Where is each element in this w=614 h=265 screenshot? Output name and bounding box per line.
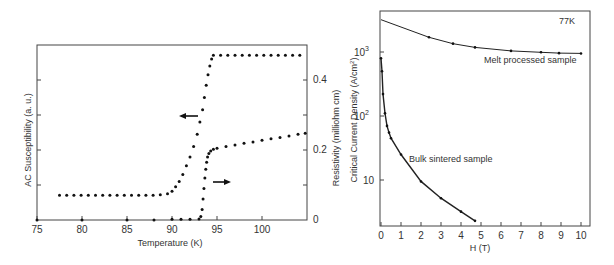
- x-tick-label: 1: [398, 230, 404, 241]
- data-point: [210, 58, 213, 61]
- data-point: [291, 54, 294, 57]
- data-point: [72, 194, 75, 197]
- data-point: [196, 133, 199, 136]
- data-point: [65, 194, 68, 197]
- y-right-tick-label: 0.2: [313, 144, 327, 155]
- bulk-sintered-label: Bulk sintered sample: [409, 154, 493, 164]
- left-y-axis-label: AC Susceptibility (a. u.): [23, 93, 33, 187]
- data-point: [198, 217, 201, 220]
- data-point: [203, 177, 206, 180]
- left-x-ticks: 7580859095100: [31, 216, 270, 235]
- left-x-axis-label: Temperature (K): [137, 238, 202, 248]
- x-tick-label: 4: [458, 230, 464, 241]
- data-point: [297, 133, 300, 136]
- data-point: [36, 219, 39, 222]
- data-point: [279, 136, 282, 139]
- left-y-ticks: 00.20.4: [37, 74, 327, 225]
- temperature-annotation: 77K: [559, 16, 575, 26]
- data-point: [216, 147, 219, 150]
- data-point: [181, 173, 184, 176]
- data-point: [174, 185, 177, 188]
- data-point: [420, 180, 423, 183]
- data-point: [207, 73, 210, 76]
- right-x-axis-label: H (T): [470, 243, 491, 253]
- data-point: [152, 194, 155, 197]
- data-point: [204, 168, 207, 171]
- x-tick-label: 10: [575, 230, 587, 241]
- x-tick-label: 3: [438, 230, 444, 241]
- data-point: [206, 156, 209, 159]
- x-tick-label: 85: [121, 224, 133, 235]
- right-chart-y-axis-label: Critical Current Density (A/cm2): [349, 58, 359, 183]
- data-point: [298, 54, 301, 57]
- data-point: [130, 194, 133, 197]
- data-point: [192, 145, 195, 148]
- data-point: [212, 148, 215, 151]
- series-line: [381, 58, 475, 221]
- data-point: [388, 131, 391, 134]
- data-point: [277, 54, 280, 57]
- data-point: [474, 46, 477, 49]
- data-point: [241, 54, 244, 57]
- data-point: [137, 194, 140, 197]
- data-point: [178, 180, 181, 183]
- data-point: [203, 96, 206, 99]
- data-point: [171, 218, 174, 221]
- data-point: [400, 153, 403, 156]
- data-point: [101, 194, 104, 197]
- left-chart: 7580859095100 00.20.4 Temperature (K) AC…: [23, 45, 341, 248]
- data-point: [189, 156, 192, 159]
- y-right-tick-label: 0: [313, 214, 319, 225]
- data-point: [205, 161, 208, 164]
- data-point: [202, 187, 205, 190]
- left-series: [36, 54, 307, 222]
- data-point: [209, 150, 212, 153]
- data-point: [540, 51, 543, 54]
- x-tick-label: 6: [498, 230, 504, 241]
- data-point: [580, 52, 583, 55]
- data-point: [452, 42, 455, 45]
- data-point: [474, 220, 477, 223]
- data-point: [252, 140, 255, 143]
- right-x-ticks: 012345678910: [378, 222, 587, 241]
- y-tick-1000: 103: [354, 45, 369, 58]
- data-point: [262, 54, 265, 57]
- data-point: [390, 137, 393, 140]
- x-tick-label: 80: [76, 224, 88, 235]
- right-chart: 012345678910 103 102 10 77K Melt process…: [349, 11, 590, 253]
- data-point: [270, 137, 273, 140]
- data-point: [234, 144, 237, 147]
- x-tick-label: 5: [478, 230, 484, 241]
- data-point: [428, 36, 431, 39]
- x-tick-label: 75: [31, 224, 43, 235]
- data-point: [153, 219, 156, 222]
- data-point: [382, 93, 385, 96]
- data-point: [201, 208, 204, 211]
- data-point: [234, 54, 237, 57]
- data-point: [80, 194, 83, 197]
- data-point: [270, 54, 273, 57]
- data-point: [380, 57, 383, 60]
- arrow-left-icon: [179, 113, 198, 119]
- data-point: [284, 54, 287, 57]
- data-point: [171, 190, 174, 193]
- data-point: [381, 70, 384, 73]
- data-point: [225, 145, 228, 148]
- data-point: [81, 219, 84, 222]
- x-tick-label: 8: [538, 230, 544, 241]
- x-tick-label: 95: [211, 224, 223, 235]
- data-point: [261, 139, 264, 142]
- data-point: [460, 210, 463, 213]
- data-point: [202, 198, 205, 201]
- data-point: [201, 108, 204, 111]
- data-point: [58, 194, 61, 197]
- y-right-tick-label: 0.4: [313, 74, 327, 85]
- series-line: [381, 20, 581, 54]
- data-point: [243, 142, 246, 145]
- y-tick-10: 10: [363, 175, 375, 186]
- data-point: [384, 112, 387, 115]
- data-point: [185, 164, 188, 167]
- data-point: [198, 121, 201, 124]
- x-tick-label: 0: [378, 230, 384, 241]
- arrow-right-icon: [213, 179, 231, 185]
